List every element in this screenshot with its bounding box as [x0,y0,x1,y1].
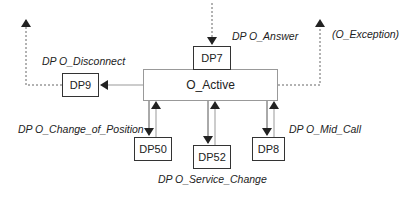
dp8-box: DP8 [252,137,285,161]
state-label: O_Active [186,78,235,92]
dp52-box: DP52 [193,145,231,169]
dp7-box: DP7 [193,46,231,70]
dp50-event-label: DP O_Change_of_Position [18,123,144,135]
state-o-active: O_Active [143,69,278,101]
dp7-event-label: DP O_Answer [232,30,298,42]
dp52-label: DP52 [198,151,226,163]
dp9-box: DP9 [62,73,99,97]
dp50-box: DP50 [134,137,172,161]
dp8-label: DP8 [258,143,279,155]
dp9-label: DP9 [70,79,91,91]
dp9-event-label: DP O_Disconnect [42,55,125,67]
exception-label: (O_Exception) [332,28,399,40]
dp8-event-label: DP O_Mid_Call [289,123,361,135]
dp7-label: DP7 [201,52,222,64]
dp52-event-label: DP O_Service_Change [158,173,267,185]
dp50-label: DP50 [139,143,167,155]
